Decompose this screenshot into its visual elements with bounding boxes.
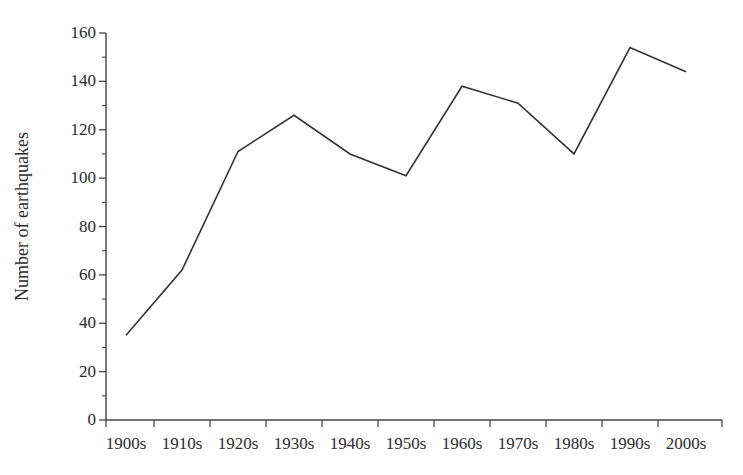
data-line-earthquakes: [126, 48, 686, 336]
x-tick-label: 2000s: [646, 435, 726, 452]
y-tick-label: 40: [30, 314, 96, 331]
axes-group: [106, 33, 722, 420]
y-tick-label: 160: [30, 24, 96, 41]
data-series-group: [126, 48, 686, 336]
chart-figure: Number of earthquakes 020406080100120140…: [0, 0, 743, 475]
y-tick-label: 60: [30, 266, 96, 283]
y-tick-label: 0: [30, 411, 96, 428]
line-chart-plot: [0, 0, 743, 475]
y-tick-label: 100: [30, 169, 96, 186]
y-tick-label: 20: [30, 363, 96, 380]
y-tick-label: 80: [30, 218, 96, 235]
y-axis-ticks: [99, 33, 106, 420]
x-axis-ticks: [106, 420, 722, 427]
y-tick-label: 120: [30, 121, 96, 138]
y-tick-label: 140: [30, 72, 96, 89]
